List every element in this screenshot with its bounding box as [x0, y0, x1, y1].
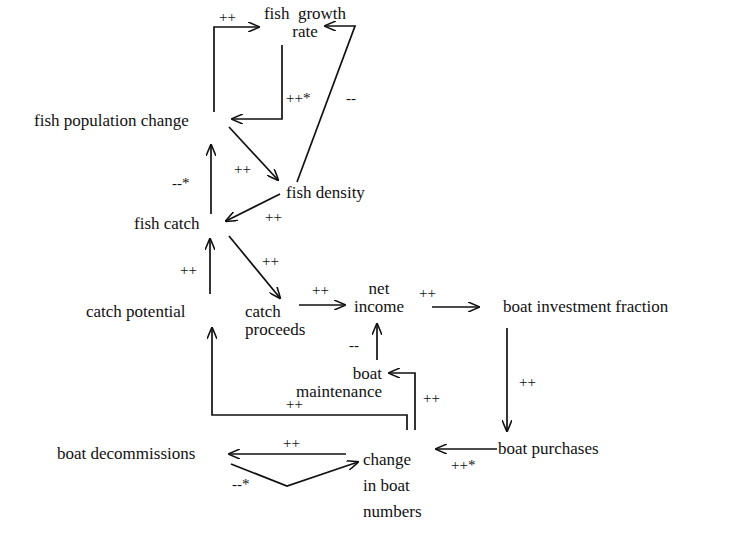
- node-boat-purchases: boat purchases: [498, 440, 599, 458]
- node-net-income-line2: income: [346, 298, 412, 316]
- sign-boatnumbers-to-decommissions: ++: [283, 436, 300, 451]
- node-fish-growth-rate-line2: rate: [250, 23, 360, 41]
- node-boat-maintenance-line1: boat: [270, 365, 382, 383]
- sign-fishcatch-to-popchange: --*: [172, 176, 190, 191]
- sign-density-to-fishcatch: ++: [265, 210, 282, 225]
- sign-purchases-to-boatnumbers: ++*: [451, 458, 475, 473]
- node-boat-purchases-label: boat purchases: [498, 439, 599, 458]
- node-catch-potential-label: catch potential: [86, 302, 186, 321]
- sign-boatnumbers-to-catchpotential: ++: [286, 397, 303, 412]
- node-fish-growth-rate: fish growth rate: [250, 5, 360, 41]
- node-net-income-line1: net: [346, 280, 412, 298]
- node-fish-catch: fish catch: [134, 215, 200, 233]
- node-catch-proceeds: catch proceeds: [245, 303, 305, 339]
- node-change-in-boat-numbers-line2: in boat: [363, 473, 422, 499]
- node-net-income: net income: [346, 280, 412, 316]
- node-fish-growth-rate-line1: fish growth: [250, 5, 360, 23]
- sign-maintenance-to-netincome: --: [349, 338, 359, 353]
- node-boat-investment-fraction: boat investment fraction: [503, 298, 668, 316]
- sign-growthrate-to-popchange: ++*: [286, 91, 310, 106]
- sign-catchpotential-to-fishcatch: ++: [180, 263, 197, 278]
- sign-boatnumbers-to-maintenance: ++: [423, 391, 440, 406]
- node-change-in-boat-numbers: change in boat numbers: [363, 447, 422, 525]
- node-change-in-boat-numbers-line3: numbers: [363, 499, 422, 525]
- node-change-in-boat-numbers-line1: change: [363, 447, 422, 473]
- node-boat-decommissions: boat decommissions: [57, 445, 195, 463]
- sign-netincome-to-investment: ++: [419, 286, 436, 301]
- edge-growthrate-to-popchange: [232, 45, 282, 119]
- sign-investment-to-purchases: ++: [519, 375, 536, 390]
- sign-popchange-to-density: ++: [234, 162, 251, 177]
- sign-popchange-to-growthrate: ++: [219, 10, 236, 25]
- edge-decommissions-to-boatnumbers: [231, 462, 358, 486]
- node-fish-density-label: fish density: [286, 183, 365, 202]
- sign-proceeds-to-netincome: ++: [312, 283, 329, 298]
- node-fish-density: fish density: [286, 184, 365, 202]
- node-catch-proceeds-line1: catch: [245, 303, 305, 321]
- node-catch-potential: catch potential: [86, 303, 186, 321]
- sign-decommissions-to-boatnumbers: --*: [232, 477, 250, 492]
- node-fish-catch-label: fish catch: [134, 214, 200, 233]
- node-fish-population-change: fish population change: [34, 112, 189, 130]
- node-boat-investment-fraction-label: boat investment fraction: [503, 297, 668, 316]
- sign-fishcatch-to-proceeds: ++: [262, 254, 279, 269]
- node-boat-decommissions-label: boat decommissions: [57, 444, 195, 463]
- node-catch-proceeds-line2: proceeds: [245, 321, 305, 339]
- sign-density-to-growthrate: --: [346, 91, 356, 106]
- causal-loop-diagram: fish growth rate fish population change …: [0, 0, 737, 543]
- edge-boatnumbers-to-maintenance: [389, 373, 415, 430]
- node-fish-population-change-label: fish population change: [34, 111, 189, 130]
